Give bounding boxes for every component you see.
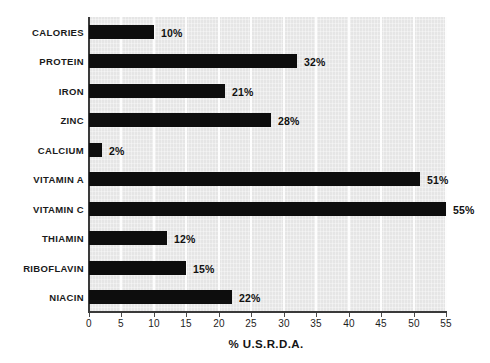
tick-label: 50 <box>402 318 426 329</box>
tick-label: 25 <box>239 318 263 329</box>
category-label-niacin: NIACIN <box>0 292 84 304</box>
tick-label: 20 <box>207 318 231 329</box>
bar-value-label: 51% <box>427 173 448 187</box>
tick-mark <box>381 313 382 317</box>
gridline <box>348 17 350 312</box>
bar-value-label: 10% <box>161 26 182 40</box>
category-label-calcium: CALCIUM <box>0 145 84 157</box>
category-label-calories: CALORIES <box>0 27 84 39</box>
bar <box>89 231 167 245</box>
bar <box>89 143 102 157</box>
bar <box>89 54 297 68</box>
tick-mark <box>284 313 285 317</box>
x-axis-title: % U.S.R.D.A. <box>0 338 490 350</box>
category-label-protein: PROTEIN <box>0 56 84 68</box>
tick-label: 35 <box>304 318 328 329</box>
tick-mark <box>446 313 447 317</box>
category-label-riboflavin: RIBOFLAVIN <box>0 263 84 275</box>
bar-value-label: 22% <box>239 291 260 305</box>
bar <box>89 202 446 216</box>
tick-mark <box>414 313 415 317</box>
gridline <box>445 17 447 312</box>
bar-value-label: 32% <box>304 55 325 69</box>
category-label-vitamin-c: VITAMIN C <box>0 204 84 216</box>
bar <box>89 261 186 275</box>
x-axis-line <box>88 311 447 313</box>
bar-value-label: 21% <box>232 85 253 99</box>
bar-value-label: 12% <box>174 232 195 246</box>
tick-label: 10 <box>142 318 166 329</box>
tick-label: 30 <box>272 318 296 329</box>
tick-mark <box>251 313 252 317</box>
gridline <box>380 17 382 312</box>
tick-mark <box>316 313 317 317</box>
chart-page: 10%32%21%28%2%51%55%12%15%22% CALORIESPR… <box>0 0 490 363</box>
tick-mark <box>89 313 90 317</box>
tick-label: 55 <box>434 318 458 329</box>
tick-label: 5 <box>109 318 133 329</box>
tick-label: 45 <box>369 318 393 329</box>
bar-value-label: 55% <box>453 203 474 217</box>
tick-mark <box>186 313 187 317</box>
bar <box>89 84 225 98</box>
tick-mark <box>154 313 155 317</box>
tick-label: 0 <box>77 318 101 329</box>
bar-value-label: 15% <box>193 262 214 276</box>
bar <box>89 113 271 127</box>
tick-mark <box>219 313 220 317</box>
category-label-vitamin-a: VITAMIN A <box>0 174 84 186</box>
bar <box>89 25 154 39</box>
category-label-zinc: ZINC <box>0 115 84 127</box>
tick-label: 40 <box>337 318 361 329</box>
bar <box>89 172 420 186</box>
category-label-thiamin: THIAMIN <box>0 233 84 245</box>
tick-mark <box>349 313 350 317</box>
category-axis-labels: CALORIESPROTEINIRONZINCCALCIUMVITAMIN AV… <box>0 0 84 363</box>
bar-value-label: 2% <box>109 144 124 158</box>
category-label-iron: IRON <box>0 86 84 98</box>
bar-value-label: 28% <box>278 114 299 128</box>
gridline <box>413 17 415 312</box>
bar <box>89 290 232 304</box>
tick-mark <box>121 313 122 317</box>
tick-label: 15 <box>174 318 198 329</box>
